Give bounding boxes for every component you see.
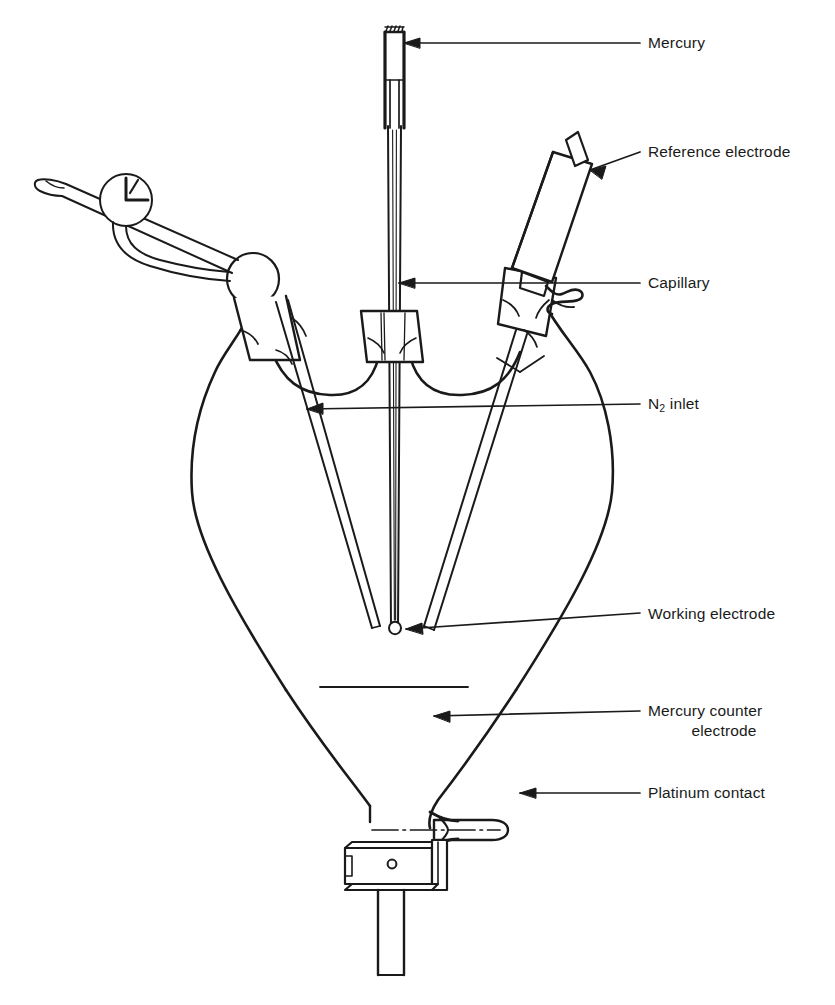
leader-working-electrode <box>406 613 640 634</box>
label-mercury: Mercury <box>648 33 705 53</box>
label-reference-electrode-text: Reference electrode <box>648 143 790 160</box>
leader-mercury <box>404 38 640 48</box>
label-mercury-text: Mercury <box>648 34 705 51</box>
label-capillary: Capillary <box>648 273 710 293</box>
working-electrode-drop <box>389 622 401 634</box>
label-n2-inlet-element: N <box>648 395 659 412</box>
top-stopcock <box>100 174 152 226</box>
capillary-bore <box>393 130 397 620</box>
label-platinum-contact: Platinum contact <box>648 783 765 803</box>
centre-ground-joint <box>361 311 423 362</box>
leader-platinum-contact <box>520 788 640 798</box>
leader-lines <box>307 38 640 798</box>
figure-page: Mercury Reference electrode Capillary N2… <box>0 0 835 1005</box>
label-mercury-counter-electrode: Mercury counter electrode <box>648 701 818 742</box>
label-n2-inlet-subscript: 2 <box>659 402 665 414</box>
label-n2-inlet: N2 inlet <box>648 394 699 414</box>
bottom-stopcock <box>345 840 447 890</box>
reservoir-rim-hatching <box>385 26 404 31</box>
label-capillary-text: Capillary <box>648 274 710 291</box>
leader-n2-inlet <box>307 403 640 414</box>
reference-tube-inner <box>424 330 527 630</box>
n2-inlet-tip <box>35 179 66 196</box>
label-reference-electrode: Reference electrode <box>648 142 790 162</box>
drain-tube <box>378 890 404 975</box>
label-working-electrode: Working electrode <box>648 604 775 624</box>
leader-reference-electrode <box>590 152 640 179</box>
label-mercury-counter-line1: Mercury counter <box>648 702 762 719</box>
flask-cone <box>286 690 516 828</box>
label-working-electrode-text: Working electrode <box>648 605 775 622</box>
label-mercury-counter-line2: electrode <box>648 721 818 741</box>
leader-mercury-counter-electrode <box>434 711 640 722</box>
reservoir-inner-tube <box>386 80 403 128</box>
label-n2-inlet-tail: inlet <box>665 395 699 412</box>
reference-electrode-body <box>512 152 592 282</box>
label-platinum-contact-text: Platinum contact <box>648 784 765 801</box>
